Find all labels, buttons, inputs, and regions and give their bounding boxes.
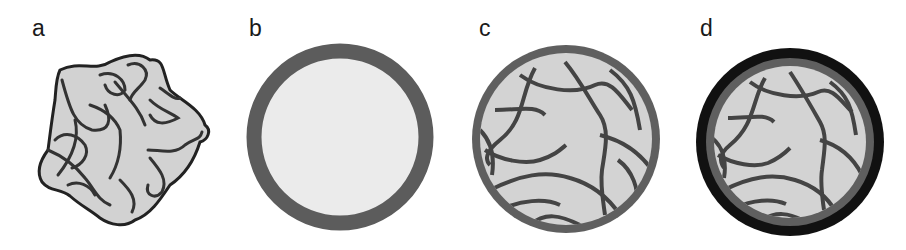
crumpled-blob bbox=[39, 55, 209, 225]
shell-sphere bbox=[254, 51, 426, 223]
network-sphere bbox=[472, 45, 660, 233]
figure-canvas bbox=[0, 0, 906, 250]
coated-network-sphere bbox=[696, 48, 884, 236]
